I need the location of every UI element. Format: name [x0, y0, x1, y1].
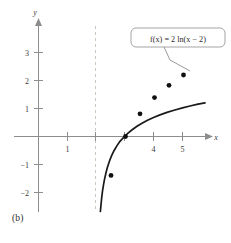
figure-panel: 1 4 5 3 2 1 −1 −2 x y f(x) = 2 ln(x − 2)… — [0, 0, 231, 243]
data-point — [138, 111, 143, 116]
y-tick-label-3: 3 — [25, 49, 29, 58]
data-point — [109, 173, 114, 178]
callout-leader-line — [164, 47, 190, 71]
y-tick-label-neg1: −1 — [20, 161, 29, 170]
function-graph: 1 4 5 3 2 1 −1 −2 x y f(x) = 2 ln(x − 2) — [0, 0, 231, 243]
panel-label: (b) — [12, 213, 24, 223]
y-axis-label: y — [32, 8, 37, 17]
y-tick-label-neg2: −2 — [20, 189, 29, 198]
x-tick-label-4: 4 — [152, 145, 156, 154]
x-axis-label: x — [213, 133, 218, 142]
y-axis-arrow — [35, 18, 42, 26]
y-tick-label-2: 2 — [25, 77, 29, 86]
x-axis-arrow — [205, 133, 213, 140]
x-tick-label-5: 5 — [181, 145, 185, 154]
y-tick-label-1: 1 — [25, 105, 29, 114]
x-tick-label-1: 1 — [66, 145, 70, 154]
function-curve — [100, 103, 205, 212]
data-point — [123, 134, 128, 139]
data-point — [152, 95, 157, 100]
data-point — [181, 73, 186, 78]
data-point — [167, 83, 172, 88]
equation-label: f(x) = 2 ln(x − 2) — [150, 35, 206, 44]
